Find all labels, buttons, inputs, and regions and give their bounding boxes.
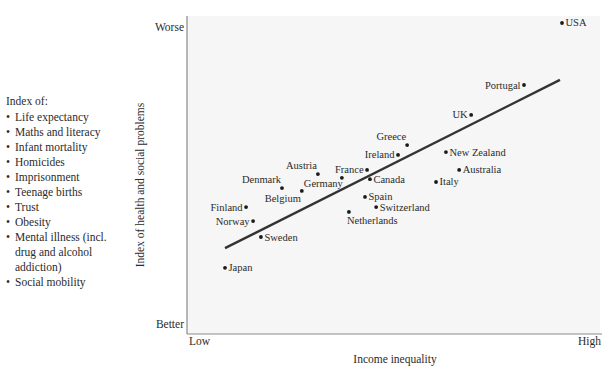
point-label: New Zealand (449, 147, 506, 158)
point-label: Sweden (264, 232, 298, 243)
data-point-australia: Australia (457, 164, 501, 175)
point-label: Denmark (242, 174, 282, 185)
point-marker (280, 186, 284, 190)
point-marker (396, 153, 400, 157)
point-marker (363, 195, 367, 199)
point-label: Portugal (485, 80, 521, 91)
point-marker (434, 180, 438, 184)
point-label: France (335, 164, 364, 175)
point-label: Netherlands (347, 215, 398, 226)
point-label: Greece (376, 131, 406, 142)
data-point-norway: Norway (216, 216, 255, 227)
point-marker (251, 219, 255, 223)
data-point-germany: Germany (304, 176, 344, 189)
point-marker (469, 113, 473, 117)
point-marker (259, 235, 263, 239)
data-point-new-zealand: New Zealand (444, 147, 506, 158)
data-point-portugal: Portugal (485, 80, 526, 91)
point-marker (405, 143, 409, 147)
data-point-switzerland: Switzerland (374, 202, 430, 213)
point-marker (244, 205, 248, 209)
point-label: USA (566, 17, 587, 28)
point-label: Switzerland (380, 202, 431, 213)
scatter-plot: USAPortugalUKGreeceIrelandNew ZealandFra… (0, 0, 613, 381)
point-marker (347, 210, 351, 214)
point-marker (374, 205, 378, 209)
data-point-finland: Finland (210, 202, 247, 213)
point-marker (223, 266, 227, 270)
point-label: Italy (440, 176, 460, 187)
point-marker (316, 172, 320, 176)
point-marker (365, 168, 369, 172)
point-label: Australia (463, 164, 502, 175)
point-marker (560, 21, 564, 25)
point-label: UK (452, 109, 468, 120)
point-label: Ireland (365, 149, 395, 160)
point-marker (457, 168, 461, 172)
data-point-sweden: Sweden (259, 232, 298, 243)
point-label: Germany (304, 178, 344, 189)
point-label: Japan (228, 262, 253, 273)
point-label: Belgium (265, 193, 301, 204)
point-marker (368, 177, 372, 181)
point-label: Finland (210, 202, 243, 213)
point-marker (444, 150, 448, 154)
point-label: Austria (286, 160, 317, 171)
data-point-japan: Japan (223, 262, 253, 273)
data-point-canada: Canada (368, 174, 405, 185)
point-label: Norway (216, 216, 251, 227)
point-marker (522, 83, 526, 87)
point-label: Canada (373, 174, 405, 185)
